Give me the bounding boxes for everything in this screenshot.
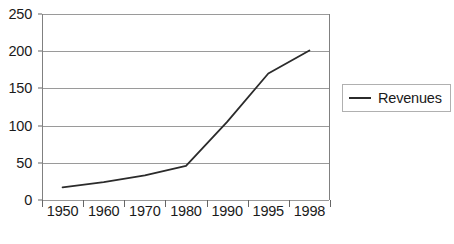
y-tick-label-50: 50 [16, 155, 32, 171]
x-tick-label-1970: 1970 [124, 203, 165, 227]
x-tick-label-1980: 1980 [165, 203, 206, 227]
x-tick-label-1950: 1950 [42, 203, 83, 227]
y-axis: 050100150200250 [0, 0, 38, 244]
x-tick-label-1990: 1990 [207, 203, 248, 227]
legend-line-swatch-icon [349, 97, 371, 99]
line-chart: 050100150200250 195019601970198019901995… [0, 0, 454, 244]
series-line-revenues [63, 50, 310, 187]
y-tick-label-0: 0 [24, 192, 32, 208]
x-tick-label-1960: 1960 [83, 203, 124, 227]
y-tick-label-200: 200 [8, 43, 32, 59]
legend-label-revenues: Revenues [378, 90, 442, 106]
y-tick-label-150: 150 [8, 80, 32, 96]
x-axis: 1950196019701980199019951998 [42, 203, 330, 227]
x-tick-label-1998: 1998 [289, 203, 330, 227]
x-tick-mark-7 [330, 200, 331, 207]
chart-legend: Revenues [342, 84, 451, 112]
x-tick-label-1995: 1995 [248, 203, 289, 227]
series-layer [42, 14, 330, 200]
y-tick-label-250: 250 [8, 6, 32, 22]
y-tick-label-100: 100 [8, 118, 32, 134]
